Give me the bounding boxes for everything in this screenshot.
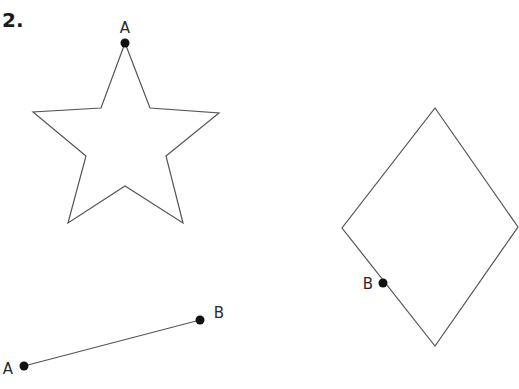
problem-number: 2. xyxy=(2,8,24,32)
star-shape xyxy=(33,43,219,223)
worksheet-figure: 2. A B A B xyxy=(0,0,519,389)
rhombus-point-b-label: B xyxy=(363,275,373,293)
segment-point-b xyxy=(196,316,205,325)
segment-point-b-label: B xyxy=(214,304,224,322)
rhombus-shape xyxy=(342,108,518,346)
star-point-a-label: A xyxy=(120,19,131,37)
line-segment-ab xyxy=(24,320,200,366)
drawing: 2. A B A B xyxy=(0,0,519,389)
segment-point-a xyxy=(20,362,29,371)
rhombus-point-b xyxy=(379,279,388,288)
segment-point-a-label: A xyxy=(3,360,14,378)
star-point-a xyxy=(121,39,130,48)
